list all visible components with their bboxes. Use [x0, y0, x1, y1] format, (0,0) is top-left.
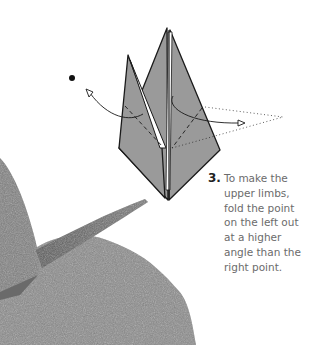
- step-number: 3.: [208, 171, 221, 186]
- step-caption: 3. To make the upper limbs, fold the poi…: [208, 171, 308, 275]
- step-line: on the left out: [224, 215, 308, 230]
- step-line: at a higher: [224, 230, 308, 245]
- instruction-page: 3. To make the upper limbs, fold the poi…: [0, 0, 310, 345]
- step-text: To make the upper limbs, fold the point …: [224, 171, 308, 275]
- step-line: fold the point: [224, 201, 308, 216]
- reference-dot-icon: [69, 75, 75, 81]
- fold-diagram: [119, 28, 220, 200]
- step-line: To make the: [224, 171, 308, 186]
- step-line: angle than the: [224, 245, 308, 260]
- step-line: upper limbs,: [224, 186, 308, 201]
- step-line: right point.: [224, 260, 308, 275]
